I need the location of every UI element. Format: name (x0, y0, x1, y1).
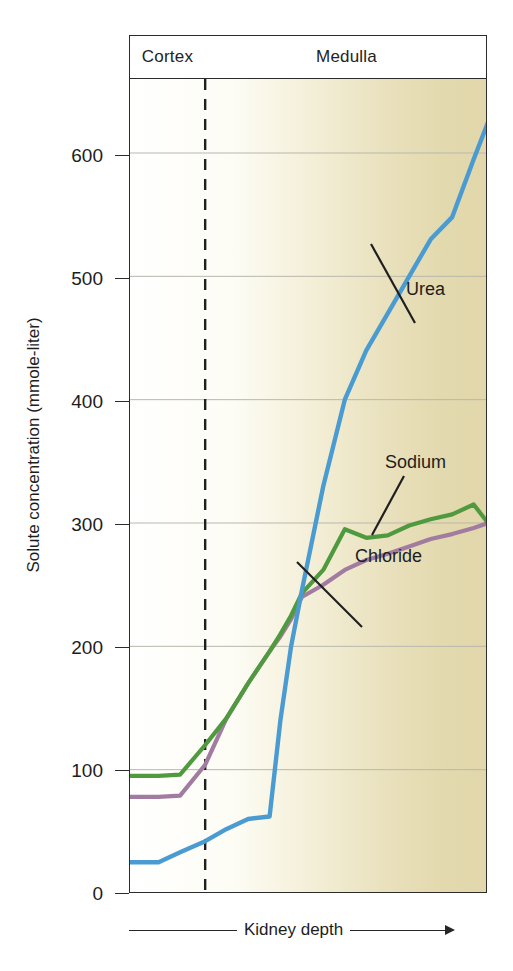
y-tick-mark-400 (115, 401, 129, 402)
x-axis-arrow-icon (445, 925, 455, 935)
series-label-sodium: Sodium (385, 452, 446, 473)
series-line-urea (130, 122, 487, 862)
x-axis-rule-left (129, 930, 237, 931)
y-tick-label-500: 500 (41, 268, 103, 290)
annotation-leader-lines (297, 244, 415, 627)
chart-svg (130, 79, 487, 893)
y-tick-label-400: 400 (41, 391, 103, 413)
y-tick-label-300: 300 (41, 514, 103, 536)
y-tick-mark-600 (115, 155, 129, 156)
y-tick-mark-200 (115, 647, 129, 648)
kidney-solute-concentration-figure: Solute concentration (mmole-liter) 0 100… (0, 0, 513, 971)
x-axis-caption: Kidney depth (129, 915, 487, 945)
series-label-urea: Urea (406, 279, 445, 300)
y-tick-label-0: 0 (41, 883, 103, 905)
y-tick-mark-0 (115, 893, 129, 894)
leader-line-sodium (372, 476, 404, 535)
x-axis-title: Kidney depth (237, 920, 350, 940)
series-line-sodium (130, 505, 487, 776)
y-tick-label-100: 100 (41, 760, 103, 782)
plot-area (129, 79, 487, 893)
region-header-box (129, 35, 487, 79)
y-tick-mark-500 (115, 278, 129, 279)
series-label-chloride: Chloride (355, 546, 422, 567)
x-axis-rule-right (350, 930, 446, 931)
y-tick-label-600: 600 (41, 145, 103, 167)
y-axis-title: Solute concentration (mmole-liter) (24, 125, 44, 765)
y-tick-mark-300 (115, 524, 129, 525)
y-tick-mark-100 (115, 770, 129, 771)
y-tick-label-200: 200 (41, 637, 103, 659)
